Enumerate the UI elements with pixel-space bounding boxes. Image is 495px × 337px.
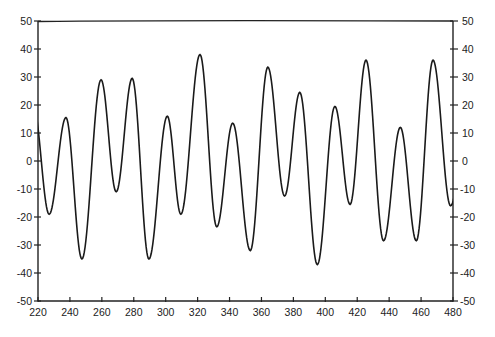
- x-tick-label: 260: [93, 306, 111, 318]
- y-tick-label-right: -30: [460, 239, 475, 251]
- top-axis-line: [38, 21, 453, 22]
- y-tick-label: 10: [20, 127, 32, 139]
- x-tick-label: 320: [189, 306, 207, 318]
- y-tick-label-right: 50: [462, 15, 474, 27]
- x-tick-label: 360: [253, 306, 271, 318]
- y-tick-label: 30: [20, 71, 32, 83]
- y-tick-label-right: 0: [462, 155, 468, 167]
- x-tick-label: 380: [285, 306, 303, 318]
- y-tick-label-right: 40: [462, 43, 474, 55]
- y-tick-label-right: 30: [462, 71, 474, 83]
- signal-line: [33, 55, 466, 265]
- y-tick-label: -50: [17, 295, 32, 307]
- y-tick-label-right: -10: [460, 183, 475, 195]
- y-tick-label: 20: [20, 99, 32, 111]
- x-tick-label: 340: [221, 306, 239, 318]
- axes: [38, 21, 453, 301]
- x-axis: 2202402602803003203403603804004204404604…: [29, 297, 462, 318]
- y-tick-label: -30: [17, 239, 32, 251]
- y-tick-label-right: 20: [462, 99, 474, 111]
- y-tick-label-right: 10: [462, 127, 474, 139]
- y-tick-label: -20: [17, 211, 32, 223]
- right-y-axis: 50403020100-10-20-30-40-50: [450, 15, 475, 307]
- y-tick-label: -40: [17, 267, 32, 279]
- line-chart: 50403020100-10-20-30-40-50 50403020100-1…: [0, 0, 495, 337]
- y-tick-label: -10: [17, 183, 32, 195]
- x-tick-label: 300: [157, 306, 175, 318]
- y-tick-label-right: -20: [460, 211, 475, 223]
- x-tick-label: 460: [412, 306, 430, 318]
- y-tick-label-right: -40: [460, 267, 475, 279]
- x-tick-label: 480: [444, 306, 462, 318]
- x-tick-label: 420: [348, 306, 366, 318]
- x-tick-label: 240: [61, 306, 79, 318]
- x-tick-label: 280: [125, 306, 143, 318]
- y-tick-label: 0: [26, 155, 32, 167]
- x-tick-label: 400: [317, 306, 335, 318]
- x-tick-label: 440: [380, 306, 398, 318]
- y-tick-label: 50: [20, 15, 32, 27]
- y-tick-label: 40: [20, 43, 32, 55]
- x-tick-label: 220: [29, 306, 47, 318]
- y-tick-label-right: -50: [460, 295, 475, 307]
